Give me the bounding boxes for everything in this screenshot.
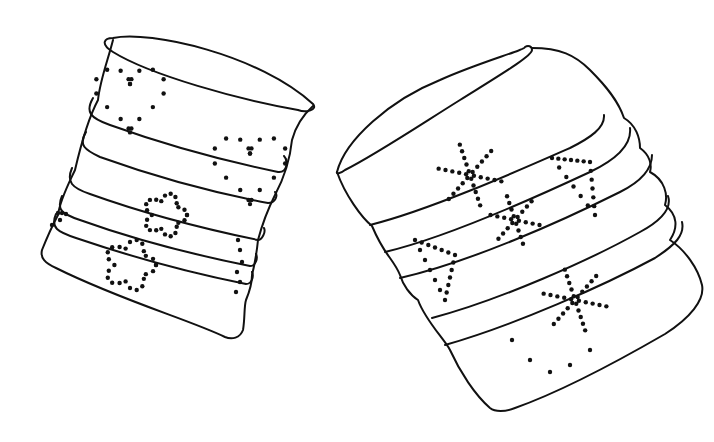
star-dot [480,159,484,163]
star-dot [461,181,465,185]
star-dot [506,226,510,230]
triangle-dot [593,213,597,217]
flower-dot [117,281,121,285]
flower-dot [175,201,179,205]
dot [568,363,572,367]
star-dot [492,178,496,182]
star-dot [512,214,516,218]
star-dot [569,287,573,291]
star-dot [509,207,513,211]
star-dot [507,201,511,205]
triangle-dot [569,158,573,162]
star-dot [590,301,594,305]
flower-dot [142,249,146,253]
triangle-dot [586,203,590,207]
star-dot [548,293,552,297]
triangle-dot [562,157,566,161]
left-can-rib [83,132,277,203]
star-dot [478,203,482,207]
flower-dot [128,286,132,290]
triangle-dot [423,258,427,262]
triangle-dot [590,186,594,190]
flower-dot [145,208,149,212]
star-dot [458,142,462,146]
heart-dot [105,105,109,109]
heart-dot [238,188,242,192]
star-dot [484,154,488,158]
star-dot [561,311,565,315]
dot [238,248,242,252]
star-dot [525,204,529,208]
star-dot [436,166,440,170]
triangle-dot [428,268,432,272]
star-dot [566,306,570,310]
star-dot [476,197,480,201]
star-dot [580,290,584,294]
triangle-dot [591,195,595,199]
heart-dot [248,202,252,206]
star-dot [499,179,503,183]
star-dot [555,294,559,298]
heart-dot [151,68,155,72]
heart-dot [246,146,250,150]
triangle-dot [413,238,417,242]
dot [528,358,532,362]
star-dot [520,210,524,214]
flower-dot [110,281,114,285]
triangle-dot [418,248,422,252]
triangle-dot [589,177,593,181]
heart-dot [272,136,276,140]
heart-dot [224,136,228,140]
flower-dot [168,192,172,196]
triangle-dot [581,159,585,163]
flower-dot [173,231,177,235]
right-can-rib [370,115,604,225]
flower-dot [154,263,158,267]
star-dot [583,328,587,332]
triangle-dot [446,250,450,254]
flower-dot [140,284,144,288]
left-tin-can [42,37,315,339]
flower-dot [173,195,177,199]
star-dot [447,197,451,201]
flower-dot [148,228,152,232]
heart-dot [137,117,141,121]
left-can-rib [54,214,253,284]
flower-dot [151,269,155,273]
star-dot [474,190,478,194]
flower-dot [140,241,144,245]
heart-dot [246,198,250,202]
star-dot [469,177,473,181]
flower-dot [117,245,121,249]
dot [60,211,64,215]
illustration [0,0,714,442]
flower-dot [144,202,148,206]
star-dot [464,162,468,166]
triangle-dot [564,175,568,179]
triangle-dot [433,245,437,249]
triangle-dot [589,169,593,173]
flower-dot [110,245,114,249]
triangle-dot [578,194,582,198]
star-dot [501,231,505,235]
triangle-dot [439,248,443,252]
triangle-dot [438,288,442,292]
flower-dot [163,193,167,197]
star-dot [556,317,560,321]
triangle-dot [426,243,430,247]
star-dot [579,315,583,319]
flower-dot [123,246,127,250]
triangle-dot [556,156,560,160]
flower-dot [163,232,167,236]
flower-dot [145,218,149,222]
heart-dot [258,188,262,192]
dot [234,290,238,294]
heart-dot [283,161,287,165]
right-tin-can [337,46,703,411]
drawing-canvas [0,0,714,442]
star-dot [467,169,471,173]
dot [548,370,552,374]
star-dot [576,308,580,312]
star-dot [456,186,460,190]
heart-dot [128,130,132,134]
